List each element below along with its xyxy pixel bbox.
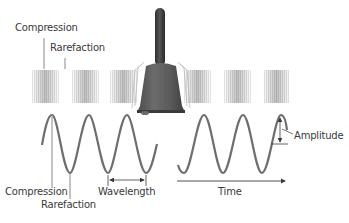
top-compression-label: Compression xyxy=(15,22,78,33)
compression-bands-right xyxy=(184,70,290,103)
compression-bands-left xyxy=(32,70,137,103)
amplitude-label: Amplitude xyxy=(294,130,343,141)
wavelength-indicator xyxy=(108,175,146,186)
wave-right xyxy=(178,115,287,173)
top-rarefaction-label: Rarefaction xyxy=(50,42,105,53)
sound-wave-diagram: Compression Rarefaction Compression Rare… xyxy=(0,0,349,223)
time-label: Time xyxy=(218,186,242,197)
wave-left xyxy=(42,115,157,173)
bottom-compression-label: Compression xyxy=(5,186,68,197)
bell-icon xyxy=(137,8,185,115)
bottom-rarefaction-label: Rarefaction xyxy=(41,199,96,210)
wavelength-label: Wavelength xyxy=(98,186,155,197)
